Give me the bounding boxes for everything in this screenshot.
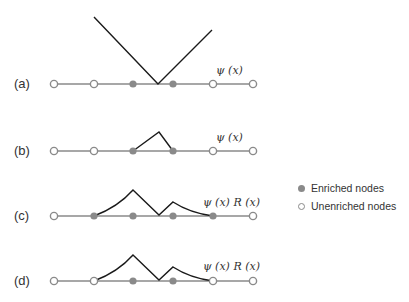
legend: Enriched nodes Unenriched nodes — [298, 179, 396, 215]
unenriched-node — [50, 147, 57, 154]
unenriched-node — [90, 277, 97, 284]
unenriched-node — [209, 80, 216, 87]
enrichment-function-curve — [94, 17, 212, 84]
unenriched-node — [90, 80, 97, 87]
unenriched-node — [50, 80, 57, 87]
panel-label-b: (b) — [14, 143, 30, 158]
unenriched-node — [50, 212, 57, 219]
enrichment-function-curve — [94, 255, 213, 281]
unenriched-node — [50, 277, 57, 284]
legend-label-unenriched: Unenriched nodes — [311, 200, 396, 212]
function-label-c: ψ (x) R (x) — [203, 196, 260, 209]
panel-a — [50, 17, 256, 88]
filled-circle-icon — [298, 185, 305, 192]
enriched-node — [129, 212, 136, 219]
function-label-a: ψ (x) — [216, 64, 243, 77]
enrichment-function-curve — [94, 190, 213, 216]
legend-item-enriched: Enriched nodes — [298, 179, 396, 197]
panel-label-a: (a) — [14, 76, 30, 91]
enrichment-function-curve — [133, 132, 173, 151]
legend-label-enriched: Enriched nodes — [311, 182, 384, 194]
unenriched-node — [249, 147, 256, 154]
enriched-node — [129, 147, 136, 154]
legend-item-unenriched: Unenriched nodes — [298, 197, 396, 215]
panel-label-c: (c) — [14, 208, 29, 223]
function-label-d: ψ (x) R (x) — [203, 260, 260, 273]
enriched-node — [169, 80, 176, 87]
function-label-b: ψ (x) — [216, 131, 243, 144]
unenriched-node — [90, 147, 97, 154]
enriched-node — [169, 212, 176, 219]
enriched-node — [169, 277, 176, 284]
enriched-node — [90, 212, 97, 219]
enriched-node — [129, 277, 136, 284]
open-circle-icon — [298, 203, 305, 210]
unenriched-node — [209, 147, 216, 154]
unenriched-node — [209, 277, 216, 284]
enriched-node — [209, 212, 216, 219]
enriched-node — [169, 147, 176, 154]
enrichment-diagram — [0, 0, 409, 302]
unenriched-node — [249, 212, 256, 219]
enriched-node — [129, 80, 136, 87]
unenriched-node — [249, 80, 256, 87]
panel-label-d: (d) — [14, 273, 30, 288]
unenriched-node — [249, 277, 256, 284]
